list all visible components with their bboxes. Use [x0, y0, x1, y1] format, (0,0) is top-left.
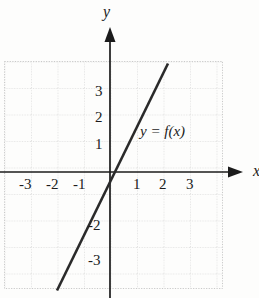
- x-tick-label-1: 1: [133, 177, 141, 192]
- coordinate-plane: [0, 0, 259, 298]
- y-tick-label-neg2: -2: [88, 218, 101, 233]
- x-axis-name: x: [253, 163, 259, 179]
- function-annotation-label: y = f(x): [140, 124, 185, 139]
- y-tick-label-1: 1: [95, 137, 103, 152]
- x-tick-label-3: 3: [186, 177, 194, 192]
- y-tick-label-2: 2: [95, 110, 103, 125]
- y-tick-label-3: 3: [95, 84, 103, 99]
- y-axis-name: y: [103, 4, 110, 20]
- x-tick-label-neg2: -2: [46, 177, 59, 192]
- x-tick-label-neg1: -1: [73, 177, 86, 192]
- x-tick-label-2: 2: [159, 177, 167, 192]
- y-tick-label-neg3: -3: [88, 253, 101, 268]
- graph-figure: y x -3 -2 -1 1 2 3 3 2 1 -2 -3 y = f(x): [0, 0, 259, 298]
- x-tick-label-neg3: -3: [19, 177, 32, 192]
